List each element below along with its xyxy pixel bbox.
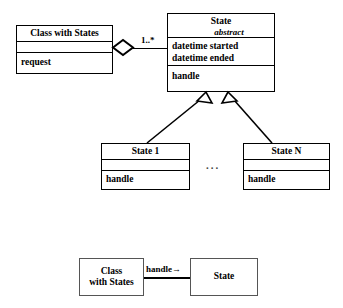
ellipsis-between-subclasses: ... (206, 160, 220, 170)
state-1-name-compartment: State 1 (102, 144, 189, 160)
generalization-arrowhead-state-1-icon (197, 92, 212, 103)
bottom-link-label: handle→ (146, 264, 181, 274)
state-name-compartment: State abstract (168, 14, 274, 38)
uml-diagram-canvas: Class with States request State abstract… (0, 0, 343, 308)
state-1-name-label: State 1 (132, 146, 160, 156)
state-n-name-compartment: State N (244, 144, 329, 160)
plain-box-class-with-states-text: Class with States (89, 266, 134, 289)
state-operations-compartment: handle (168, 66, 274, 89)
class-box-state-1[interactable]: State 1 handle (101, 143, 190, 190)
generalization-line-state-1 (147, 100, 200, 143)
state-abstract-marker: abstract (171, 27, 271, 37)
plain-box-state-label: State (214, 271, 235, 283)
right-arrow-icon: → (172, 264, 181, 274)
generalization-line-state-n (234, 100, 272, 143)
class-name-compartment: Class with States (17, 26, 112, 42)
state-n-attributes-compartment-empty (244, 160, 329, 171)
generalization-arrowhead-state-n-icon (222, 92, 237, 103)
class-attributes-compartment-empty (17, 42, 112, 53)
class-box-state[interactable]: State abstract datetime started datetime… (167, 13, 275, 92)
attribute-datetime-started: datetime started (172, 40, 271, 52)
state-name-label: State (211, 16, 232, 26)
aggregation-line (133, 48, 167, 50)
multiplicity-label: 1..* (141, 35, 155, 45)
bottom-link-label-text: handle (146, 264, 172, 274)
operation-request: request (21, 56, 109, 68)
state-n-operations-compartment: handle (244, 171, 329, 188)
plain-box-line-2: with States (89, 277, 134, 289)
plain-box-state[interactable]: State (190, 258, 258, 296)
attribute-datetime-ended: datetime ended (172, 52, 271, 64)
class-box-state-n[interactable]: State N handle (243, 143, 330, 190)
class-operations-compartment: request (17, 53, 112, 72)
bottom-link-line (144, 277, 190, 279)
operation-handle: handle (172, 70, 271, 82)
state-n-operation-handle: handle (248, 173, 326, 185)
state-1-attributes-compartment-empty (102, 160, 189, 171)
state-attributes-compartment: datetime started datetime ended (168, 38, 274, 66)
state-1-operation-handle: handle (106, 173, 186, 185)
class-name-label: Class with States (30, 28, 99, 38)
aggregation-diamond-icon (113, 40, 133, 55)
plain-box-line-1: Class (89, 266, 134, 278)
class-box-class-with-states[interactable]: Class with States request (16, 25, 113, 74)
plain-box-class-with-states[interactable]: Class with States (79, 258, 144, 296)
state-1-operations-compartment: handle (102, 171, 189, 188)
state-n-name-label: State N (272, 146, 302, 156)
